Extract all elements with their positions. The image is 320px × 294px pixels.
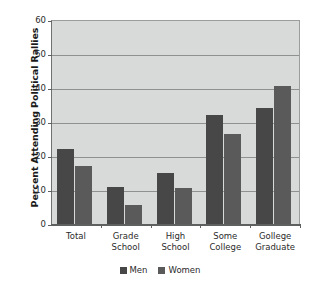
y-axis-tick-labels: 0102030405060 bbox=[20, 0, 46, 294]
legend-swatch-women bbox=[158, 267, 165, 274]
bar-group bbox=[201, 21, 251, 224]
plot-area bbox=[51, 20, 300, 224]
x-axis-tick-mark bbox=[300, 224, 301, 228]
legend-label-men: Men bbox=[130, 266, 148, 275]
bar-women bbox=[274, 86, 291, 224]
x-axis-tick-mark bbox=[250, 224, 251, 228]
x-axis-tick-label: High School bbox=[151, 231, 201, 253]
bar-group bbox=[251, 21, 301, 224]
x-axis-tick-label: Gollege Graduate bbox=[250, 231, 300, 253]
legend-label-women: Women bbox=[168, 266, 200, 275]
x-axis-tick-mark bbox=[200, 224, 201, 228]
x-axis-tick-mark bbox=[101, 224, 102, 228]
bar-group bbox=[52, 21, 102, 224]
y-axis-tick-label: 50 bbox=[22, 50, 46, 59]
bar-men bbox=[57, 149, 74, 224]
legend-entry-women: Women bbox=[158, 266, 200, 275]
y-axis-tick-label: 20 bbox=[22, 152, 46, 161]
x-axis-tick-label: Grade School bbox=[101, 231, 151, 253]
bar-group bbox=[102, 21, 152, 224]
legend-entry-men: Men bbox=[120, 266, 148, 275]
bar-women bbox=[75, 166, 92, 224]
legend-swatch-men bbox=[120, 267, 127, 274]
bar-men bbox=[256, 108, 273, 224]
bar-women bbox=[125, 205, 142, 224]
bar-chart-figure: Percent Attending Political Rallies 0102… bbox=[0, 0, 320, 294]
x-axis-tick-label: Total bbox=[51, 231, 101, 242]
y-axis-tick-label: 30 bbox=[22, 118, 46, 127]
bar-group bbox=[152, 21, 202, 224]
bar-men bbox=[157, 173, 174, 224]
bar-men bbox=[107, 187, 124, 224]
bar-women bbox=[224, 134, 241, 224]
chart-legend: MenWomen bbox=[0, 266, 320, 275]
bar-women bbox=[175, 188, 192, 224]
y-axis-tick-label: 0 bbox=[22, 220, 46, 229]
x-axis-line bbox=[51, 224, 301, 226]
bar-men bbox=[206, 115, 223, 224]
y-axis-tick-label: 40 bbox=[22, 84, 46, 93]
y-axis-tick-label: 10 bbox=[22, 186, 46, 195]
y-axis-tick-label: 60 bbox=[22, 16, 46, 25]
x-axis-tick-mark bbox=[151, 224, 152, 228]
x-axis-tick-label: Some College bbox=[200, 231, 250, 253]
